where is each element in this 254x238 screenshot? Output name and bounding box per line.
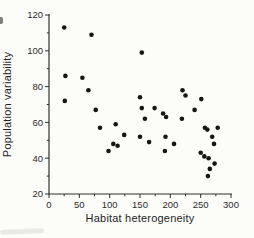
data-point [138,95,143,100]
data-point [202,154,207,159]
data-point [212,142,217,147]
data-point [115,143,120,148]
data-point [206,156,211,161]
y-tick-label: 20 [32,188,43,199]
x-tick-label: 200 [162,199,178,210]
x-tick-label: 300 [223,199,239,210]
data-point [140,106,145,111]
scatter-chart-figure: 05010015020025030020406080100120Habitat … [0,0,254,238]
x-tick-label: 100 [102,199,118,210]
data-point [198,151,203,156]
y-tick-label: 80 [32,81,43,92]
data-point [138,134,143,139]
screenshot-root: 05010015020025030020406080100120Habitat … [0,0,254,238]
data-point [183,93,188,98]
data-point [212,161,217,166]
x-axis-title: Habitat heterogeneity [86,212,195,224]
x-tick-label: 250 [193,199,209,210]
data-point [208,167,213,172]
data-point [163,149,168,154]
data-point [152,106,157,111]
data-point [172,142,177,147]
y-tick-label: 40 [32,153,43,164]
data-point [63,74,68,79]
y-axis-title: Population variability [1,52,13,158]
y-tick-label: 60 [32,117,43,128]
scatter-plot: 05010015020025030020406080100120Habitat … [0,0,254,238]
data-point [143,117,148,122]
data-point [113,122,118,127]
data-point [62,25,67,30]
data-point [205,127,210,132]
data-point [206,174,211,179]
data-point [106,149,111,154]
data-point [86,88,91,93]
data-point [199,97,204,102]
data-point [89,32,94,37]
data-point [111,142,116,147]
data-point [63,99,68,104]
data-point [122,133,127,138]
y-tick-label: 100 [27,45,43,56]
data-point [80,75,85,80]
x-tick-label: 0 [46,199,51,210]
data-point [180,88,185,93]
data-point [164,115,169,120]
data-point [215,126,220,131]
data-point [180,117,185,122]
data-point [192,108,197,113]
data-point [140,50,145,55]
data-point [147,140,152,145]
data-point [210,134,215,139]
x-tick-label: 50 [74,199,85,210]
data-point [93,108,98,113]
data-point [163,134,168,139]
x-tick-label: 150 [132,199,148,210]
data-point [161,111,166,116]
y-tick-label: 120 [27,9,43,20]
data-point [98,126,103,131]
